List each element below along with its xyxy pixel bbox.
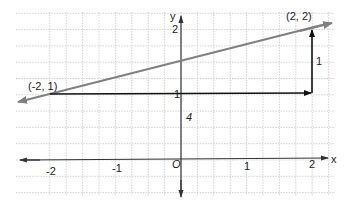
origin-label: O bbox=[172, 158, 181, 170]
x-axis-label: x bbox=[331, 153, 337, 165]
point-label-start: (-2, 1) bbox=[28, 80, 57, 92]
rise-label: 1 bbox=[316, 55, 322, 67]
x-tick-label: 1 bbox=[244, 160, 250, 172]
coordinate-plane: x y O -2 -1 1 2 2 1 (-2, 1) (2, 2) 4 1 bbox=[0, 0, 349, 211]
x-tick-label: 2 bbox=[309, 158, 315, 170]
y-axis-label: y bbox=[170, 10, 176, 22]
point-label-end: (2, 2) bbox=[286, 10, 312, 22]
run-label: 4 bbox=[186, 111, 192, 123]
y-tick-label: 2 bbox=[172, 23, 178, 35]
x-tick-label: -2 bbox=[46, 165, 56, 177]
x-tick-label: -1 bbox=[112, 162, 122, 174]
run-vector bbox=[50, 93, 311, 94]
